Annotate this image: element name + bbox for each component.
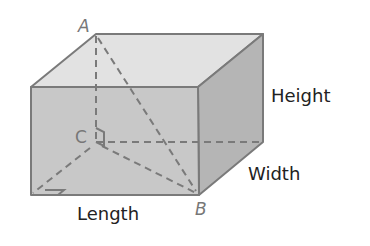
dimension-label-width: Width	[248, 163, 300, 184]
rectangular-prism-diagram: A C B Height Width Length	[0, 0, 370, 246]
dimension-label-height: Height	[271, 85, 331, 106]
point-label-A: A	[77, 16, 90, 36]
point-label-C: C	[75, 127, 87, 147]
dimension-label-length: Length	[77, 203, 139, 224]
point-label-B: B	[195, 199, 207, 219]
